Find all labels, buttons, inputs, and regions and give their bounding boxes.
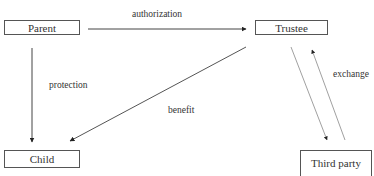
authorization-label: authorization <box>132 9 182 19</box>
protection-label: protection <box>49 80 88 90</box>
child-label: Child <box>30 153 54 165</box>
parent-label: Parent <box>28 22 56 34</box>
parent-node: Parent <box>4 20 80 35</box>
trustee-to-third-party-arrow <box>291 47 327 140</box>
third-party-node: Third party <box>300 150 372 176</box>
trustee-label: Trustee <box>275 22 308 34</box>
trustee-node: Trustee <box>255 20 328 35</box>
third-party-label: Third party <box>311 157 361 169</box>
exchange-arrow <box>312 50 345 140</box>
exchange-label: exchange <box>333 69 369 79</box>
benefit-label: benefit <box>168 105 194 115</box>
benefit-arrow <box>70 47 246 141</box>
child-node: Child <box>4 150 80 168</box>
